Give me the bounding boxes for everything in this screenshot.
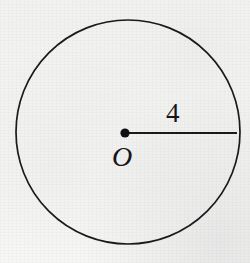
- center-point-label: O: [112, 143, 132, 171]
- geometry-drawing-canvas: [0, 0, 250, 263]
- center-dot: [120, 128, 129, 137]
- circle-diagram-figure: 4 O: [0, 0, 250, 263]
- radius-length-label: 4: [166, 100, 180, 127]
